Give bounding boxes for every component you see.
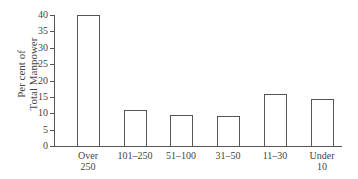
- y-tick: [50, 146, 54, 147]
- y-tick: [50, 130, 54, 131]
- bar-chart: Per cent of Total Manpower 0510152025303…: [0, 0, 358, 179]
- x-category-label-line: Over: [66, 150, 110, 161]
- y-tick-label: 5: [30, 125, 48, 135]
- bar: [170, 115, 193, 146]
- y-tick-label: 15: [30, 92, 48, 102]
- bar: [124, 110, 147, 146]
- y-tick: [50, 31, 54, 32]
- y-tick: [50, 64, 54, 65]
- y-tick-label: 10: [30, 108, 48, 118]
- y-tick: [50, 15, 54, 16]
- bar: [77, 15, 100, 146]
- y-tick: [50, 113, 54, 114]
- x-category-label-line: 11–30: [253, 150, 297, 161]
- x-category-label: 51–100: [159, 150, 203, 161]
- x-category-label: 11–30: [253, 150, 297, 161]
- x-category-label-line: 10: [300, 161, 344, 172]
- bar: [264, 94, 287, 146]
- x-category-label: 101–250: [113, 150, 157, 161]
- y-axis-line: [54, 15, 55, 146]
- x-category-label-line: Under: [300, 150, 344, 161]
- x-category-label-line: 51–100: [159, 150, 203, 161]
- x-category-label: 31–50: [206, 150, 250, 161]
- y-tick-label: 0: [30, 141, 48, 151]
- y-tick-label: 25: [30, 59, 48, 69]
- x-category-label-line: 31–50: [206, 150, 250, 161]
- y-tick: [50, 81, 54, 82]
- y-axis-label-line-1: Per cent of: [15, 9, 27, 139]
- x-category-label: Over250: [66, 150, 110, 172]
- x-category-label-line: 250: [66, 161, 110, 172]
- bar: [311, 99, 334, 146]
- y-tick-label: 30: [30, 43, 48, 53]
- y-tick: [50, 48, 54, 49]
- bar: [217, 116, 240, 146]
- x-category-label-line: 101–250: [113, 150, 157, 161]
- y-tick-label: 20: [30, 76, 48, 86]
- y-tick-label: 35: [30, 26, 48, 36]
- y-tick: [50, 97, 54, 98]
- x-category-label: Under10: [300, 150, 344, 172]
- y-tick-label: 40: [30, 10, 48, 20]
- x-axis-line: [54, 146, 342, 147]
